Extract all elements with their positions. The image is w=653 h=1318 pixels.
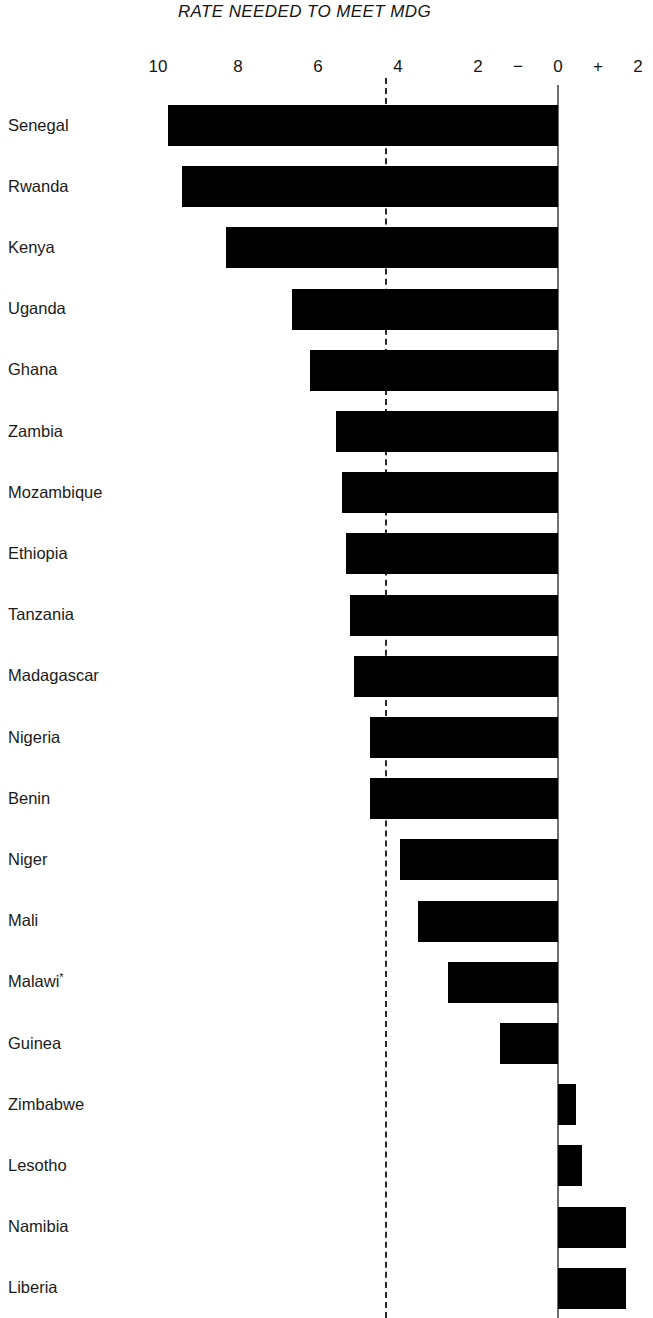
x-tick-label: 0	[538, 57, 578, 77]
category-label-uganda: Uganda	[8, 299, 66, 318]
bar	[448, 962, 558, 1003]
zero-axis-line	[557, 85, 559, 1318]
bar	[310, 350, 558, 391]
bar	[370, 778, 558, 819]
category-label-rwanda: Rwanda	[8, 177, 69, 196]
bar	[354, 656, 558, 697]
x-tick-label: 10	[138, 57, 178, 77]
x-axis-sign-marker: −	[498, 57, 538, 77]
bar-chart: RATE NEEDED TO MEET MDG 10864202 −+ Sene…	[0, 0, 653, 1318]
bar	[350, 595, 558, 636]
x-axis-sign-marker: +	[578, 57, 618, 77]
bar	[168, 105, 558, 146]
bar	[400, 839, 558, 880]
category-label-kenya: Kenya	[8, 238, 55, 257]
bar	[500, 1023, 558, 1064]
bar	[558, 1145, 582, 1186]
x-tick-label: 2	[618, 57, 653, 77]
category-label-senegal: Senegal	[8, 116, 69, 135]
category-label-namibia: Namibia	[8, 1217, 69, 1236]
category-label-zimbabwe: Zimbabwe	[8, 1095, 84, 1114]
bar	[336, 411, 558, 452]
category-label-ethiopia: Ethiopia	[8, 544, 68, 563]
bar	[558, 1084, 576, 1125]
bar	[558, 1268, 626, 1309]
bar	[418, 901, 558, 942]
category-label-mozambique: Mozambique	[8, 483, 102, 502]
category-label-benin: Benin	[8, 789, 50, 808]
category-label-madagascar: Madagascar	[8, 666, 99, 685]
category-label-malawi: Malawi*	[8, 972, 64, 991]
x-tick-label: 2	[458, 57, 498, 77]
plot-area: 10864202 −+ SenegalRwandaKenyaUgandaGhan…	[0, 0, 653, 1318]
bar	[346, 533, 558, 574]
bar	[226, 227, 558, 268]
bar	[370, 717, 558, 758]
bar	[182, 166, 558, 207]
bar	[342, 472, 558, 513]
category-label-mali: Mali	[8, 911, 38, 930]
category-label-niger: Niger	[8, 850, 47, 869]
x-tick-label: 6	[298, 57, 338, 77]
category-label-nigeria: Nigeria	[8, 728, 60, 747]
bar	[558, 1207, 626, 1248]
footnote-marker: *	[59, 971, 63, 983]
bar	[292, 289, 558, 330]
category-label-guinea: Guinea	[8, 1034, 61, 1053]
category-label-liberia: Liberia	[8, 1278, 58, 1297]
x-tick-label: 8	[218, 57, 258, 77]
category-label-lesotho: Lesotho	[8, 1156, 67, 1175]
category-label-tanzania: Tanzania	[8, 605, 74, 624]
category-label-ghana: Ghana	[8, 360, 58, 379]
category-label-zambia: Zambia	[8, 422, 63, 441]
x-tick-label: 4	[378, 57, 418, 77]
